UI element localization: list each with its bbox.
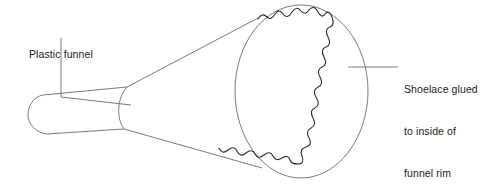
label-shoelace-line-1: Shoelace glued (404, 82, 478, 96)
funnel-stem (28, 87, 127, 134)
label-bubble-pipe-text: The bubble pipe (29, 192, 106, 193)
label-plastic-funnel-text: Plastic funnel (29, 47, 93, 61)
label-shoelace-line-2: to inside of (404, 124, 478, 138)
label-shoelace-line-3: funnel rim (404, 166, 478, 180)
shoelace-wavy-line (219, 7, 333, 164)
funnel-cone (124, 18, 262, 168)
label-shoelace: Shoelace glued to inside of funnel rim (404, 54, 478, 193)
label-plastic-funnel: Plastic funnel (29, 19, 93, 89)
label-bubble-pipe: The bubble pipe (29, 164, 106, 193)
bubble-pipe-diagram: Plastic funnel The bubble pipe Shoelace … (0, 0, 503, 193)
